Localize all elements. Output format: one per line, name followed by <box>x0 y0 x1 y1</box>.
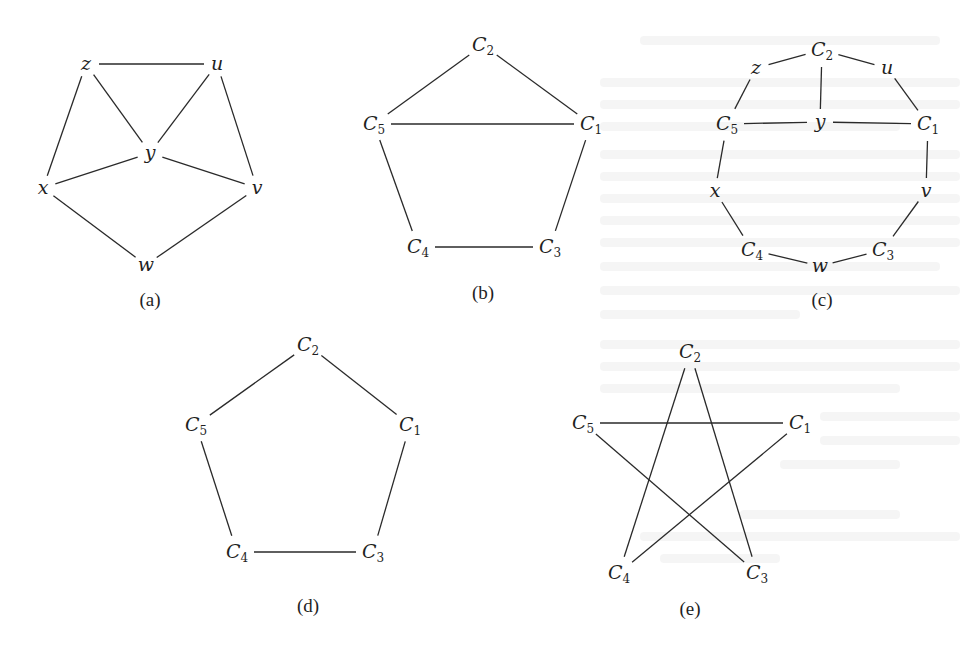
node-C2: C2 <box>811 38 833 63</box>
node-v: v <box>252 176 263 198</box>
node-C1: C1 <box>917 112 939 137</box>
edge-C2-u <box>838 55 874 65</box>
node-x: x <box>38 176 49 198</box>
edge-x-C4 <box>722 202 743 236</box>
panel-caption: (b) <box>472 282 494 304</box>
edge-u-y <box>158 74 209 142</box>
node-y: y <box>814 110 826 132</box>
node-C4: C4 <box>407 235 430 260</box>
edge-C2-y <box>820 67 821 109</box>
node-C3: C3 <box>539 235 561 260</box>
panel-a-graph: zuyxvw(a) <box>38 52 263 311</box>
node-C2: C2 <box>297 333 319 358</box>
panel-d-graph: C2C5C1C4C3(d) <box>185 333 421 617</box>
node-C4: C4 <box>608 561 631 586</box>
node-C3: C3 <box>746 561 768 586</box>
node-w: w <box>812 254 828 276</box>
edge-C5-C4 <box>380 140 413 231</box>
node-C5: C5 <box>716 112 738 137</box>
edge-C1-v <box>926 141 927 178</box>
node-C3: C3 <box>872 238 894 263</box>
panel-b-graph: C2C5C1C4C3(b) <box>363 33 602 304</box>
panel-caption: (c) <box>811 289 832 311</box>
edge-C2-C1 <box>497 55 578 114</box>
edge-C1-C4 <box>632 434 787 562</box>
edge-C5-x <box>717 141 724 178</box>
panel-e-graph: C2C5C1C4C3(e) <box>572 340 811 620</box>
node-C2: C2 <box>472 33 494 58</box>
node-C4: C4 <box>741 238 764 263</box>
edge-C1-C3 <box>378 441 405 535</box>
edge-x-w <box>53 196 135 257</box>
edge-C5-C4 <box>201 441 232 536</box>
node-C5: C5 <box>363 112 385 137</box>
node-z: z <box>80 52 92 74</box>
edge-z-y <box>94 75 143 143</box>
node-u: u <box>881 56 893 78</box>
edge-x-y <box>55 157 137 184</box>
edge-C2-C5 <box>210 355 294 415</box>
panel-caption: (e) <box>679 598 700 620</box>
node-C5: C5 <box>185 413 207 438</box>
node-C1: C1 <box>580 112 602 137</box>
node-C2: C2 <box>679 340 701 365</box>
panel-caption: (a) <box>139 289 160 311</box>
node-w: w <box>138 253 154 275</box>
edge-C2-C1 <box>321 355 396 414</box>
node-C4: C4 <box>226 540 249 565</box>
node-u: u <box>211 52 223 74</box>
edge-y-v <box>162 157 244 184</box>
edge-C1-C3 <box>555 140 585 231</box>
edge-u-v <box>221 76 253 175</box>
edge-v-C3 <box>893 202 918 237</box>
node-C1: C1 <box>789 411 811 436</box>
edge-z-C2 <box>769 54 806 64</box>
edge-u-C1 <box>895 78 918 110</box>
node-z: z <box>750 56 762 78</box>
node-v: v <box>921 179 932 201</box>
node-C5: C5 <box>572 411 594 436</box>
edge-z-C5 <box>735 80 750 109</box>
edge-C5-C3 <box>596 434 744 562</box>
edge-C5-y <box>744 122 807 123</box>
panel-c-graph: C2zuC5yC1xvC4C3w(c) <box>710 38 939 311</box>
edge-C2-C4 <box>624 368 685 557</box>
node-C3: C3 <box>362 540 384 565</box>
edge-v-w <box>157 195 247 257</box>
edge-y-C1 <box>833 122 911 123</box>
node-y: y <box>144 141 156 163</box>
node-x: x <box>710 179 721 201</box>
graph-figure: zuyxvw(a) C2C5C1C4C3(b) C2zuC5yC1xvC4C3w… <box>0 0 972 650</box>
edge-C2-C5 <box>388 55 469 114</box>
node-C1: C1 <box>399 413 421 438</box>
edge-C2-C3 <box>695 368 752 556</box>
edge-z-x <box>47 76 81 175</box>
edge-w-C3 <box>833 254 867 263</box>
edge-C4-w <box>769 254 808 263</box>
panel-caption: (d) <box>297 595 319 617</box>
